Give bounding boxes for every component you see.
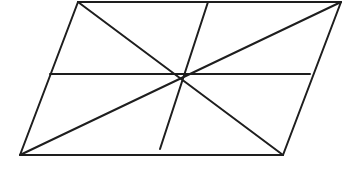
- slanted-midline-line: [160, 2, 208, 149]
- diagram-canvas: [0, 0, 355, 176]
- diagonal-bl-tr-line: [20, 2, 341, 155]
- parallelogram-diagram: [0, 0, 355, 176]
